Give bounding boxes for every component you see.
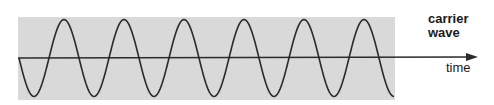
carrier-wave-diagram: carrierwave time (0, 0, 494, 105)
label-line2: wave (428, 25, 460, 40)
time-axis-label: time (446, 60, 471, 75)
label-line1: carrier (428, 11, 468, 26)
wave-plot (0, 0, 494, 105)
carrier-wave-label: carrierwave (428, 12, 468, 40)
